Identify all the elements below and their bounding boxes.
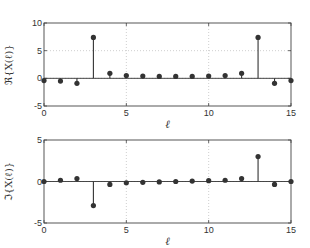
real-part-plot: 051015-50510ℓℜ{X(ℓ)} [3,18,296,131]
stem-marker [223,73,228,78]
stem-marker [91,203,96,208]
x-tick-label: 10 [204,108,214,118]
stem-marker [239,71,244,76]
stem-marker [124,73,129,78]
x-tick-label: 5 [124,225,129,235]
x-tick-label: 15 [286,108,296,118]
stem-marker [173,74,178,79]
stem-marker [58,79,63,84]
y-tick-label: 10 [32,18,42,28]
stem-marker [173,179,178,184]
x-tick-label: 15 [286,225,296,235]
y-tick-label: 0 [37,73,42,83]
stem-marker [157,179,162,184]
stem-marker [124,180,129,185]
x-tick-label: 0 [41,108,46,118]
y-axis-label: ℑ{X(ℓ)} [3,162,14,201]
stem-marker [74,176,79,181]
stem-marker [157,74,162,79]
x-tick-label: 5 [124,108,129,118]
stem-marker [206,178,211,183]
stem-marker [239,176,244,181]
x-tick-label: 0 [41,225,46,235]
stem-marker [74,81,79,86]
stem-marker [206,74,211,79]
stem-marker [272,81,277,86]
y-axis-label: ℜ{X(ℓ)} [3,44,14,84]
axes-frame [44,23,291,106]
stem-marker [140,74,145,79]
imag-part-plot: 051015-505ℓℑ{X(ℓ)} [3,135,296,248]
stem-marker [255,35,260,40]
y-tick-label: 5 [37,135,42,145]
stem-marker [140,180,145,185]
y-tick-label: 5 [37,46,42,56]
stem-marker [107,182,112,187]
stem-marker [223,178,228,183]
stem-marker [288,78,293,83]
stem-marker [91,35,96,40]
stem-marker [255,154,260,159]
stem-marker [190,178,195,183]
x-axis-label: ℓ [165,118,170,131]
stem-marker [41,78,46,83]
stem-marker [41,179,46,184]
stem-marker [107,71,112,76]
stem-marker [190,74,195,79]
y-tick-label: 0 [37,177,42,187]
y-tick-label: -5 [34,101,42,111]
x-axis-label: ℓ [165,235,170,248]
stem-marker [288,179,293,184]
stem-marker [272,182,277,187]
stem-marker [58,178,63,183]
y-tick-label: -5 [34,218,42,228]
x-tick-label: 10 [204,225,214,235]
stem-chart-figure: 051015-50510ℓℜ{X(ℓ)}051015-505ℓℑ{X(ℓ)} [0,0,310,248]
